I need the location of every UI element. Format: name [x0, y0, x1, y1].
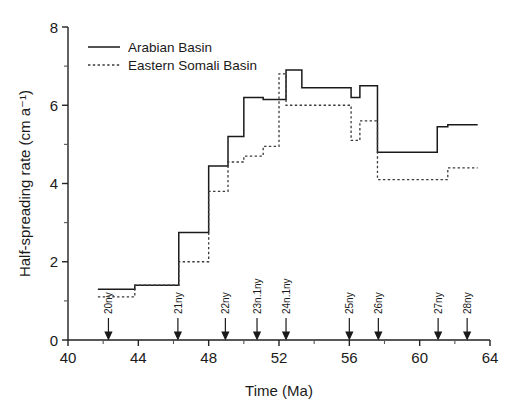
annotation-label: 28ny: [462, 292, 473, 314]
x-tick-label: 48: [200, 349, 217, 366]
chron-annotation: 25ny: [344, 292, 355, 339]
chron-annotation: 26ny: [373, 292, 384, 339]
annotation-label: 27ny: [433, 292, 444, 314]
y-tick-label: 6: [50, 97, 58, 114]
chron-annotation: 23n.1ny: [252, 278, 263, 339]
legend-label: Arabian Basin: [128, 40, 212, 55]
annotation-arrow-head: [464, 332, 470, 339]
annotation-label: 23n.1ny: [252, 278, 263, 314]
legend-item: Arabian Basin: [88, 40, 212, 55]
x-tick-label: 60: [411, 349, 428, 366]
chron-annotation: 28ny: [462, 292, 473, 339]
annotation-label: 20ny: [103, 292, 114, 314]
data-series: [98, 70, 478, 297]
y-axis-title: Half-spreading rate (cm a⁻¹): [16, 90, 33, 277]
annotation-label: 21ny: [173, 292, 184, 314]
x-tick-label: 56: [341, 349, 358, 366]
x-tick-label: 40: [60, 349, 77, 366]
annotation-arrow-head: [254, 332, 260, 339]
legend-label: Eastern Somali Basin: [128, 58, 257, 73]
legend-item: Eastern Somali Basin: [88, 58, 257, 73]
x-tick-label: 44: [130, 349, 147, 366]
annotation-arrow-head: [283, 332, 289, 339]
series-line-eastern-somali-basin: [98, 74, 478, 297]
annotation-arrow-head: [375, 332, 381, 339]
chron-annotation: 21ny: [173, 292, 184, 339]
y-tick-label: 0: [50, 332, 58, 349]
annotation-arrow-head: [346, 332, 352, 339]
annotation-label: 24n.1ny: [281, 278, 292, 314]
y-axis-title-group: Half-spreading rate (cm a⁻¹): [16, 90, 33, 277]
annotation-label: 25ny: [344, 292, 355, 314]
x-axis-title: Time (Ma): [245, 382, 313, 399]
chron-annotation: 22ny: [220, 292, 231, 339]
annotation-label: 26ny: [373, 292, 384, 314]
series-line-arabian-basin: [98, 70, 478, 289]
annotation-arrow-head: [435, 332, 441, 339]
legend: Arabian BasinEastern Somali Basin: [88, 40, 257, 73]
spreading-rate-step-chart: 0246840444852566064 20ny21ny22ny23n.1ny2…: [0, 0, 525, 408]
chron-annotation: 20ny: [103, 292, 114, 339]
chron-annotation: 27ny: [433, 292, 444, 339]
y-tick-label: 2: [50, 253, 58, 270]
axes: 0246840444852566064: [50, 19, 499, 367]
annotation-label: 22ny: [220, 292, 231, 314]
annotation-arrow-head: [105, 332, 111, 339]
annotation-arrow-head: [175, 332, 181, 339]
annotation-arrow-head: [222, 332, 228, 339]
chart-figure: 0246840444852566064 20ny21ny22ny23n.1ny2…: [0, 0, 525, 408]
x-tick-label: 52: [271, 349, 288, 366]
y-tick-label: 4: [50, 175, 58, 192]
chron-annotation: 24n.1ny: [281, 278, 292, 339]
x-tick-label: 64: [482, 349, 499, 366]
chron-annotations: 20ny21ny22ny23n.1ny24n.1ny25ny26ny27ny28…: [103, 278, 473, 339]
y-tick-label: 8: [50, 19, 58, 36]
